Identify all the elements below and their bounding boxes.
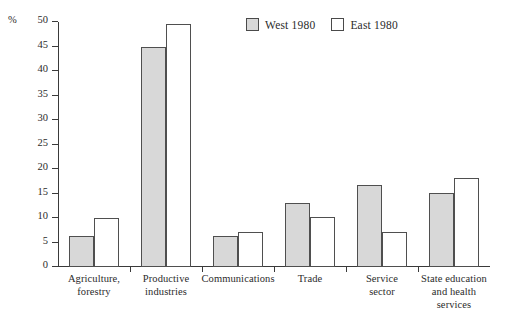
y-tick: 5	[52, 242, 58, 243]
bar-west	[69, 236, 94, 267]
y-tick-label: 50	[38, 14, 49, 25]
y-tick-label: 0	[43, 259, 48, 270]
y-tick: 25	[52, 144, 58, 145]
y-tick: 0	[52, 266, 58, 267]
bar-west	[285, 203, 310, 267]
y-tick-label: 5	[43, 235, 48, 246]
bar-east	[238, 232, 263, 267]
cat-label-line: Communications	[201, 273, 274, 284]
y-tick: 10	[52, 217, 58, 218]
y-tick: 35	[52, 95, 58, 96]
bar-east	[382, 232, 407, 267]
y-axis-line	[58, 22, 59, 267]
bar-east	[166, 24, 191, 267]
cat-label-line: Trade	[298, 273, 323, 284]
plot-area: 05101520253035404550	[58, 22, 490, 267]
y-tick: 45	[52, 46, 58, 47]
cat-label-line: sector	[369, 286, 395, 297]
y-tick-label: 35	[38, 88, 49, 99]
y-tick: 20	[52, 168, 58, 169]
bar-west	[357, 185, 382, 267]
cat-label-line: Productive	[143, 273, 190, 284]
y-tick-label: 40	[38, 63, 49, 74]
y-tick-label: 10	[38, 210, 49, 221]
bar-west	[213, 236, 238, 267]
cat-label-line: services	[437, 299, 472, 310]
y-tick: 40	[52, 70, 58, 71]
cat-label-line: and health	[432, 286, 476, 297]
y-tick-label: 25	[38, 137, 49, 148]
cat-label-line: Agriculture,	[68, 273, 120, 284]
y-tick: 50	[52, 21, 58, 22]
bar-west	[141, 47, 166, 268]
bar-east	[94, 218, 119, 267]
bar-west	[429, 193, 454, 267]
cat-label-line: Service	[366, 273, 398, 284]
y-tick-label: 30	[38, 112, 49, 123]
bar-east	[454, 178, 479, 267]
bar-chart: West 1980 East 1980 % 051015202530354045…	[0, 0, 509, 329]
y-tick-label: 45	[38, 39, 49, 50]
cat-label-line: State education	[421, 273, 487, 284]
y-tick-label: 15	[38, 186, 49, 197]
y-tick: 15	[52, 193, 58, 194]
cat-label-line: forestry	[77, 286, 110, 297]
y-axis-unit-label: %	[8, 14, 17, 25]
cat-label-line: industries	[145, 286, 187, 297]
bar-east	[310, 217, 335, 267]
y-tick-label: 20	[38, 161, 49, 172]
y-tick: 30	[52, 119, 58, 120]
x-axis-category-label: State educationand healthservices	[412, 272, 496, 311]
